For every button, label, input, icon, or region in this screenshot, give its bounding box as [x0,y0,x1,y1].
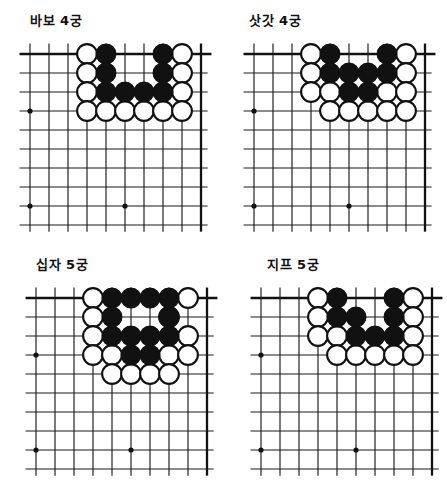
black-stone[interactable] [358,82,378,102]
black-stone[interactable] [96,44,116,64]
white-stone[interactable] [77,101,97,121]
white-stone[interactable] [339,101,359,121]
star-point [353,447,358,452]
white-stone[interactable] [172,101,192,121]
black-stone[interactable] [327,288,347,308]
white-stone[interactable] [77,82,97,102]
black-stone[interactable] [140,345,160,365]
black-stone[interactable] [377,63,397,83]
black-stone[interactable] [115,82,135,102]
go-board[interactable] [240,40,439,239]
black-stone[interactable] [320,63,340,83]
white-stone[interactable] [327,326,347,346]
white-stone[interactable] [403,288,423,308]
black-stone[interactable] [153,63,173,83]
white-stone[interactable] [178,345,198,365]
white-stone[interactable] [365,345,385,365]
black-stone[interactable] [377,44,397,64]
black-stone[interactable] [140,288,160,308]
white-stone[interactable] [77,63,97,83]
black-stone[interactable] [384,288,404,308]
black-stone[interactable] [339,63,359,83]
white-stone[interactable] [396,82,416,102]
black-stone[interactable] [384,307,404,327]
white-stone[interactable] [377,101,397,121]
panel-title: 바보 4궁 [30,10,82,29]
black-stone[interactable] [134,82,154,102]
white-stone[interactable] [396,63,416,83]
black-stone[interactable] [121,326,141,346]
go-board[interactable] [247,284,446,483]
white-stone[interactable] [172,63,192,83]
diagram-sheet: 바보 4궁 삿갓 4궁 십자 5궁 지프 5궁 [0,0,447,488]
white-stone[interactable] [178,288,198,308]
white-stone[interactable] [77,44,97,64]
white-stone[interactable] [83,288,103,308]
white-stone[interactable] [308,307,328,327]
white-stone[interactable] [121,364,141,384]
white-stone[interactable] [377,82,397,102]
white-stone[interactable] [140,364,160,384]
black-stone[interactable] [102,326,122,346]
black-stone[interactable] [102,307,122,327]
white-stone[interactable] [159,364,179,384]
black-stone[interactable] [339,82,359,102]
white-stone[interactable] [301,63,321,83]
white-stone[interactable] [403,307,423,327]
white-stone[interactable] [115,101,135,121]
white-stone[interactable] [308,288,328,308]
white-stone[interactable] [396,101,416,121]
black-stone[interactable] [121,345,141,365]
black-stone[interactable] [358,63,378,83]
white-stone[interactable] [83,326,103,346]
white-stone[interactable] [153,101,173,121]
star-point [122,203,127,208]
white-stone[interactable] [308,326,328,346]
white-stone[interactable] [159,345,179,365]
go-board[interactable] [22,284,221,483]
white-stone[interactable] [320,82,340,102]
star-point [258,447,263,452]
board-grid [247,284,446,483]
white-stone[interactable] [358,101,378,121]
white-stone[interactable] [403,345,423,365]
black-stone[interactable] [159,307,179,327]
white-stone[interactable] [172,82,192,102]
black-stone[interactable] [121,288,141,308]
black-stone[interactable] [102,288,122,308]
white-stone[interactable] [301,82,321,102]
white-stone[interactable] [96,101,116,121]
black-stone[interactable] [159,288,179,308]
white-stone[interactable] [83,345,103,365]
white-stone[interactable] [320,101,340,121]
white-stone[interactable] [403,326,423,346]
black-stone[interactable] [384,326,404,346]
white-stone[interactable] [172,44,192,64]
black-stone[interactable] [153,82,173,102]
white-stone[interactable] [83,307,103,327]
black-stone[interactable] [96,82,116,102]
star-point [33,447,38,452]
white-stone[interactable] [102,364,122,384]
white-stone[interactable] [396,44,416,64]
black-stone[interactable] [320,44,340,64]
board-grid [240,40,439,239]
black-stone[interactable] [346,307,366,327]
panel-title: 삿갓 4궁 [249,10,301,29]
star-point [251,108,256,113]
white-stone[interactable] [134,101,154,121]
white-stone[interactable] [327,345,347,365]
black-stone[interactable] [96,63,116,83]
white-stone[interactable] [178,326,198,346]
white-stone[interactable] [102,345,122,365]
black-stone[interactable] [327,307,347,327]
white-stone[interactable] [384,345,404,365]
black-stone[interactable] [153,44,173,64]
go-board[interactable] [16,40,215,239]
white-stone[interactable] [346,345,366,365]
black-stone[interactable] [140,326,160,346]
black-stone[interactable] [159,326,179,346]
black-stone[interactable] [346,326,366,346]
black-stone[interactable] [365,326,385,346]
white-stone[interactable] [301,44,321,64]
